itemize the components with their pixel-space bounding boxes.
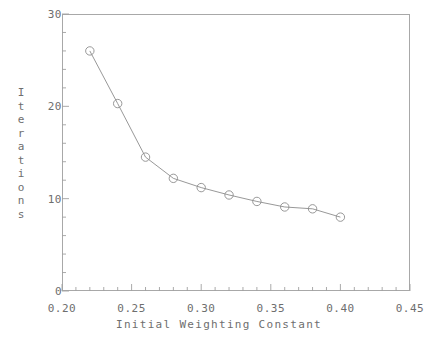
data-point-marker (336, 213, 344, 221)
data-series-markers (86, 47, 345, 222)
y-axis-title-letter: s (14, 208, 28, 222)
x-tick-label: 0.25 (117, 302, 146, 315)
y-tick-label: 20 (48, 100, 62, 113)
y-axis-major-ticks (62, 14, 69, 291)
x-axis-minor-ticks (76, 287, 396, 291)
x-axis-title: Initial Weighting Constant (0, 318, 438, 331)
x-tick-label: 0.30 (187, 302, 216, 315)
y-axis-title-letter: o (14, 181, 28, 195)
data-series-line (90, 51, 341, 217)
y-axis-title-letter: t (14, 154, 28, 168)
y-axis-title-letter: a (14, 140, 28, 154)
y-axis-title-letter: I (14, 86, 28, 100)
chart-figure: 0.200.250.300.350.400.45 0102030 Initial… (0, 0, 438, 342)
y-axis-title-letter: e (14, 113, 28, 127)
y-axis-title: Iterations (14, 86, 28, 221)
x-tick-label: 0.40 (326, 302, 355, 315)
x-tick-label: 0.35 (257, 302, 286, 315)
x-tick-label: 0.20 (48, 302, 77, 315)
x-tick-label: 0.45 (396, 302, 425, 315)
y-axis-title-letter: t (14, 100, 28, 114)
y-axis-minor-ticks (62, 32, 66, 272)
y-tick-label: 30 (48, 8, 62, 21)
y-tick-label: 10 (48, 192, 62, 205)
y-axis-title-letter: n (14, 194, 28, 208)
y-axis-title-letter: r (14, 127, 28, 141)
y-axis-title-letter: i (14, 167, 28, 181)
y-tick-label: 0 (55, 285, 62, 298)
x-axis-major-ticks (62, 284, 410, 291)
plot-canvas (62, 14, 410, 291)
